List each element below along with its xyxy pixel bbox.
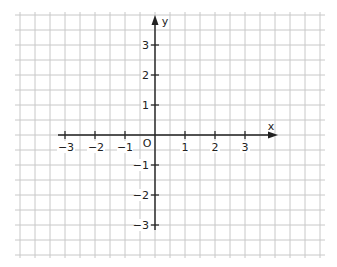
x-tick-label: 2 [212,141,219,154]
x-tick-label: 3 [242,141,249,154]
y-tick-label: −2 [133,189,149,202]
y-tick-label: 2 [142,69,149,82]
y-tick-label: 1 [142,99,149,112]
y-axis-arrow-icon [152,15,159,25]
x-tick-labels: −3 −2 −1 1 2 3 [57,141,250,154]
y-tick-label: 3 [142,39,149,52]
y-tick-label: −3 [133,219,149,232]
coordinate-plane: −3 −2 −1 1 2 3 3 2 1 −1 −2 −3 O x y [0,0,337,267]
y-axis-label: y [162,15,169,28]
x-tick-label: −3 [58,141,74,154]
x-tick-label: −1 [117,141,133,154]
x-axis-label: x [268,120,275,133]
origin-label: O [143,137,152,150]
x-tick-label: 1 [182,141,189,154]
x-tick-label: −2 [88,141,104,154]
y-tick-label: −1 [133,159,149,172]
